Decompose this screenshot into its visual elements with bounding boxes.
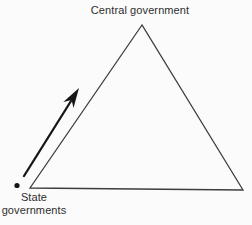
state-governments-dot (14, 183, 19, 188)
central-government-label: Central government (60, 4, 220, 17)
state-governments-label: State governments (1, 191, 67, 217)
triangle-shape (30, 25, 243, 190)
diagram-canvas: Central government State governments (0, 0, 252, 225)
arrow-head-icon (63, 88, 79, 108)
